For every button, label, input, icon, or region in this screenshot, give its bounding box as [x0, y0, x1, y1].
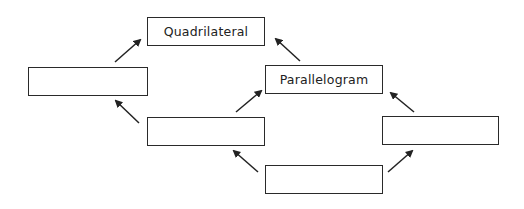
arrow-middle-blank-to-left-blank — [116, 101, 139, 123]
node-parallelogram: Parallelogram — [265, 65, 383, 94]
arrow-parallelogram-to-quadrilateral — [276, 39, 300, 61]
arrow-right-blank-to-parallelogram — [391, 93, 414, 112]
arrow-left-blank-to-quadrilateral — [115, 40, 140, 62]
node-middle-blank — [147, 117, 265, 146]
node-bottom-blank — [265, 165, 383, 194]
node-left-blank — [28, 67, 148, 96]
arrow-bottom-blank-to-right-blank — [388, 151, 412, 172]
node-right-blank — [382, 116, 499, 145]
node-quadrilateral: Quadrilateral — [147, 17, 265, 46]
arrow-middle-blank-to-parallelogram — [236, 91, 261, 112]
arrow-bottom-blank-to-middle-blank — [234, 151, 258, 172]
